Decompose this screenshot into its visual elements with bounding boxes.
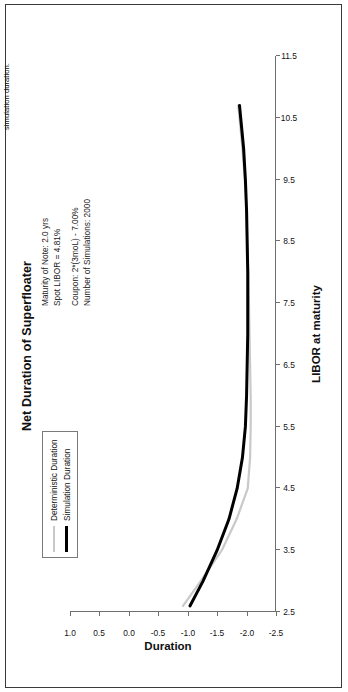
y-axis-tick <box>158 612 159 616</box>
series-lines <box>70 56 276 612</box>
y-axis-tick <box>129 612 130 616</box>
annotation-spot-libor: Spot LIBOR = 4.81% <box>52 199 64 306</box>
y-axis-tick <box>217 612 218 616</box>
x-axis-tick-label: 4.5 <box>275 483 303 493</box>
annotation-maturity: Maturity of Note: 2.0 yrs <box>40 199 52 306</box>
y-axis-tick-label: 0.0 <box>116 626 142 640</box>
series-line-deterministic <box>183 105 251 605</box>
y-axis-tick-label: 0.5 <box>86 626 112 640</box>
y-axis-tick-label: -2.5 <box>263 626 289 640</box>
y-axis-tick <box>188 612 189 616</box>
x-axis-tick-label: 10.5 <box>275 113 303 123</box>
y-axis-tick <box>276 612 277 616</box>
y-axis-tick-label: -2.0 <box>234 626 260 640</box>
x-axis-tick-label: 8.5 <box>275 236 303 246</box>
x-axis-label: LIBOR at maturity <box>310 56 322 612</box>
plot-area: LIBOR at maturity Duration 2.53.54.55.56… <box>70 56 276 612</box>
legend-swatch-deterministic <box>53 526 55 552</box>
y-axis-tick-label: -1.0 <box>175 626 201 640</box>
x-axis-tick-label: 5.5 <box>275 422 303 432</box>
x-axis-tick-label: 6.5 <box>275 360 303 370</box>
chart-stage: Net Duration of Superfloater Maturity of… <box>14 14 334 678</box>
figure-page: simulation duration. Net Duration of Sup… <box>0 0 348 692</box>
chart-title: Net Duration of Superfloater <box>20 14 34 678</box>
y-axis-tick <box>99 612 100 616</box>
y-axis-label: Duration <box>144 640 191 652</box>
figure-caption-note: simulation duration. <box>2 10 11 130</box>
y-axis-tick-label: -1.5 <box>204 626 230 640</box>
x-axis-tick-label: 9.5 <box>275 175 303 185</box>
series-line-simulation <box>190 105 248 605</box>
legend-item-deterministic: Deterministic Duration <box>47 439 60 552</box>
y-axis-tick <box>70 612 71 616</box>
y-axis-tick-label: -0.5 <box>145 626 171 640</box>
legend-swatch-simulation <box>65 526 68 552</box>
x-axis-tick-label: 2.5 <box>275 607 303 617</box>
x-axis-tick-label: 11.5 <box>275 51 303 61</box>
y-axis-tick-label: 1.0 <box>57 626 83 640</box>
legend-label-deterministic: Deterministic Duration <box>49 439 59 521</box>
x-axis-tick-label: 3.5 <box>275 545 303 555</box>
x-axis-tick-label: 7.5 <box>275 298 303 308</box>
y-axis-tick <box>247 612 248 616</box>
